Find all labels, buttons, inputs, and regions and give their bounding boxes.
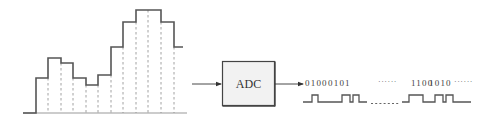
analog-signal	[23, 10, 187, 113]
code-ellipsis: ······	[378, 77, 397, 86]
code-3: 1010	[429, 78, 452, 88]
pulse-train-1	[303, 95, 367, 102]
adc-label: ADC	[236, 77, 261, 91]
digital-waveform	[303, 95, 471, 104]
pulse-train-2	[402, 95, 471, 102]
code-0: 0100	[305, 78, 328, 88]
staircase-waveform	[23, 10, 183, 113]
diagram-canvas: ADC 0100 0101 ······ 1100 1010 ······	[0, 0, 502, 121]
adc-block: ADC	[223, 62, 276, 107]
digital-codes: 0100 0101 ······ 1100 1010 ······	[305, 77, 473, 88]
code-1: 0101	[328, 78, 351, 88]
adc-diagram: ADC 0100 0101 ······ 1100 1010 ······	[0, 0, 502, 121]
code-ellipsis-end: ······	[454, 77, 473, 86]
